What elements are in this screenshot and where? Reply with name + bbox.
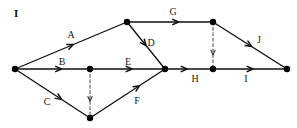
edge-C <box>15 69 90 118</box>
edge-label-C: C <box>44 97 51 107</box>
node-n3 <box>87 66 93 72</box>
node-n8 <box>284 66 290 72</box>
edge-label-J: J <box>257 35 261 45</box>
node-n6 <box>210 19 216 25</box>
node-n2 <box>124 19 130 25</box>
arrowheads-layer <box>55 19 253 101</box>
edge-F <box>90 69 165 118</box>
node-n4 <box>87 115 93 121</box>
edge-label-F: F <box>134 96 140 106</box>
edge-label-D: D <box>147 38 154 48</box>
edge-label-B: B <box>59 57 66 67</box>
node-n7 <box>210 66 216 72</box>
network-diagram <box>0 0 297 128</box>
figure-canvas: ABCDEFGHIJ I <box>0 0 297 128</box>
edge-label-H: H <box>191 74 198 84</box>
node-n1 <box>12 66 18 72</box>
nodes-layer <box>12 19 290 121</box>
node-n5 <box>162 66 168 72</box>
edge-label-A: A <box>67 30 74 40</box>
edge-label-I: I <box>244 74 247 84</box>
edge-label-E: E <box>125 57 131 67</box>
edge-label-G: G <box>169 7 176 17</box>
figure-caption: I <box>14 8 18 19</box>
